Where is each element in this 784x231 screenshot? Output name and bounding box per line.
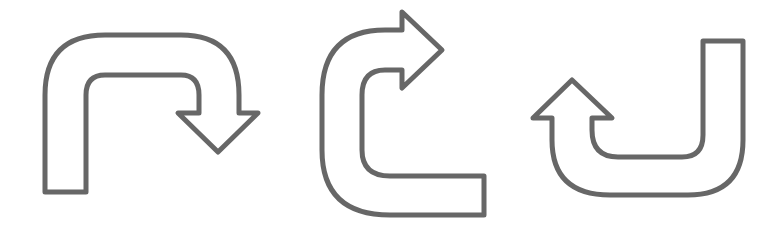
u-turn-arrow-up-left-icon	[533, 41, 743, 195]
arrow-shape	[533, 41, 743, 195]
arrow-shape	[45, 35, 258, 192]
u-turn-arrow-down-right-icon	[45, 35, 258, 192]
arrow-shape	[322, 12, 484, 215]
u-turn-arrow-right-icon	[322, 12, 484, 215]
arrows-diagram	[0, 0, 784, 231]
